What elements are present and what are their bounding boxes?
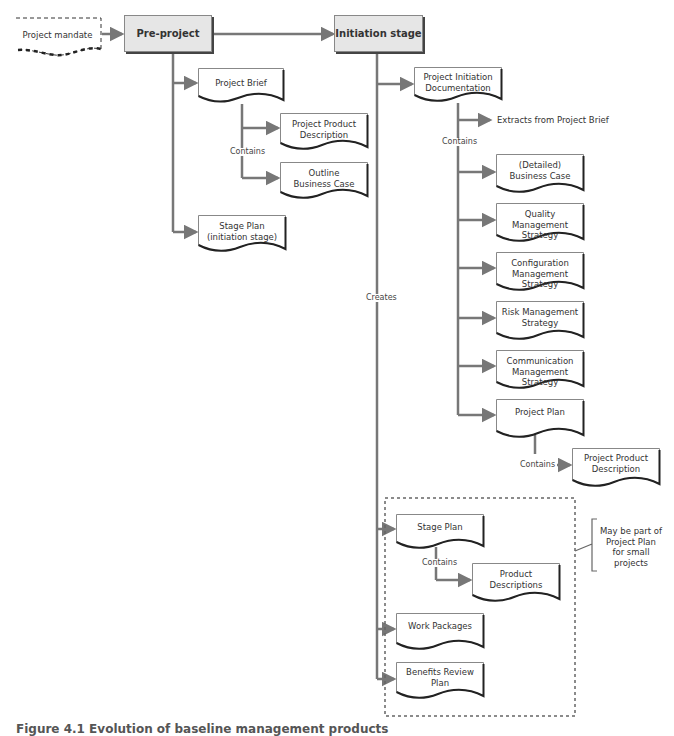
doc-project-product-description: Project Product Description bbox=[280, 113, 368, 151]
contains-label: Contains bbox=[518, 461, 557, 469]
doc-label: Stage Plan bbox=[396, 522, 484, 533]
doc-label: Outline Business Case bbox=[280, 168, 368, 189]
doc-quality-management-strategy: Quality Management Strategy bbox=[496, 203, 584, 243]
doc-detailed-business-case: (Detailed) Business Case bbox=[496, 154, 584, 194]
doc-label: Risk Management Strategy bbox=[496, 307, 584, 328]
doc-configuration-management-strategy: Configuration Management Strategy bbox=[496, 252, 584, 292]
doc-project-plan: Project Plan bbox=[496, 399, 584, 439]
pre-project-stage: Pre-project bbox=[124, 15, 212, 52]
doc-label: Project Product Description bbox=[280, 119, 368, 140]
pre-project-label: Pre-project bbox=[136, 28, 199, 39]
doc-project-brief: Project Brief bbox=[198, 68, 284, 104]
doc-risk-management-strategy: Risk Management Strategy bbox=[496, 301, 584, 341]
doc-label: Project Brief bbox=[198, 78, 284, 89]
figure-caption: Figure 4.1 Evolution of baseline managem… bbox=[16, 722, 389, 736]
doc-outline-business-case: Outline Business Case bbox=[280, 162, 368, 200]
doc-communication-management-strategy: Communication Management Strategy bbox=[496, 350, 584, 390]
doc-label: Communication Management Strategy bbox=[496, 356, 584, 388]
doc-stage-plan-initiation: Stage Plan (initiation stage) bbox=[198, 215, 286, 253]
extracts-label: Extracts from Project Brief bbox=[497, 115, 609, 126]
doc-label: Project Plan bbox=[496, 407, 584, 418]
doc-work-packages: Work Packages bbox=[396, 613, 484, 651]
project-mandate-label: Project mandate bbox=[23, 30, 93, 40]
doc-stage-plan: Stage Plan bbox=[396, 514, 484, 550]
doc-label: Product Descriptions bbox=[472, 569, 560, 590]
project-mandate-box: Project mandate bbox=[15, 17, 100, 52]
document-shape bbox=[496, 399, 584, 439]
creates-label: Creates bbox=[364, 294, 399, 302]
contains-label: Contains bbox=[420, 559, 459, 567]
initiation-stage-label: Initiation stage bbox=[335, 28, 421, 39]
doc-label: Quality Management Strategy bbox=[496, 209, 584, 241]
doc-label: Project Product Description bbox=[572, 453, 660, 474]
doc-product-descriptions: Product Descriptions bbox=[472, 563, 560, 603]
document-shape bbox=[396, 613, 484, 651]
contains-label: Contains bbox=[440, 138, 479, 146]
doc-label: Stage Plan (initiation stage) bbox=[198, 221, 286, 242]
doc-benefits-review-plan: Benefits Review Plan bbox=[396, 662, 484, 700]
doc-label: (Detailed) Business Case bbox=[496, 160, 584, 181]
contains-label: Contains bbox=[228, 148, 267, 156]
doc-project-initiation-documentation: Project Initiation Documentation bbox=[414, 67, 502, 103]
doc-label: Work Packages bbox=[396, 621, 484, 632]
doc-label: Configuration Management Strategy bbox=[496, 258, 584, 290]
doc-label: Benefits Review Plan bbox=[396, 667, 484, 688]
doc-label: Project Initiation Documentation bbox=[414, 72, 502, 93]
small-projects-annotation: May be part of Project Plan for small pr… bbox=[596, 526, 666, 569]
doc-plan-project-product-description: Project Product Description bbox=[572, 448, 660, 488]
initiation-stage: Initiation stage bbox=[334, 15, 423, 52]
